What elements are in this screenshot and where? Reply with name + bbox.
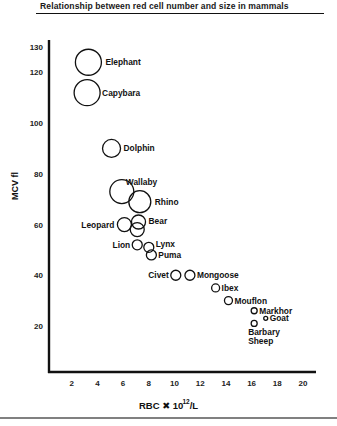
point-label: Leopard (81, 220, 114, 230)
data-point-mongoose: Mongoose (185, 270, 239, 280)
point-label: Puma (158, 250, 181, 260)
y-tick-label: 100 (30, 119, 44, 128)
scatter-plot: 2468101214161820 20406080100120130 Eleph… (0, 0, 337, 426)
data-point-elephant: Elephant (75, 49, 141, 75)
x-axis-label-unit: /L (190, 400, 198, 411)
y-tick-labels: 20406080100120130 (30, 43, 44, 331)
x-axis-label: RBC ✖ 1012/L (139, 398, 198, 411)
y-tick-label: 20 (34, 322, 43, 331)
point-label: Mouflon (234, 296, 267, 306)
point-label: Bear (149, 216, 168, 226)
point-label: Mongoose (197, 270, 239, 280)
y-tick-label: 40 (34, 271, 43, 280)
point-marker (251, 308, 257, 314)
x-tick-label: 2 (69, 379, 74, 388)
point-marker (251, 320, 257, 326)
x-tick-label: 12 (196, 379, 205, 388)
y-tick-label: 130 (30, 43, 44, 52)
x-tick-label: 4 (95, 379, 100, 388)
point-marker (117, 218, 131, 232)
data-point-mouflon: Mouflon (224, 296, 267, 306)
point-label: Dolphin (124, 143, 155, 153)
data-point-dolphin: Dolphin (103, 139, 155, 157)
y-tick-label: 80 (34, 170, 43, 179)
point-label: Sheep (248, 336, 273, 346)
point-marker (171, 270, 181, 280)
data-point-civet: Civet (148, 270, 180, 280)
data-point-capybara: Capybara (74, 80, 141, 106)
data-point-ibex: Ibex (212, 283, 239, 293)
point-marker (185, 270, 195, 280)
point-marker (264, 316, 268, 320)
point-label: Wallaby (126, 177, 158, 187)
x-tick-label: 20 (299, 379, 308, 388)
data-point-rhino: Rhino (129, 191, 179, 213)
point-label: Lion (113, 240, 131, 250)
point-label: Goat (270, 313, 289, 323)
data-points: ElephantCapybaraDolphinWallabyRhinoLeopa… (74, 49, 293, 346)
x-tick-label: 18 (273, 379, 282, 388)
data-point-lion: Lion (113, 240, 143, 250)
point-label: Lynx (156, 239, 176, 249)
y-tick-label: 120 (30, 68, 44, 77)
point-marker (130, 223, 144, 237)
point-label: Rhino (155, 197, 179, 207)
point-marker (103, 139, 121, 157)
point-label: Civet (148, 270, 169, 280)
point-label: Capybara (102, 88, 141, 98)
point-label: Elephant (105, 57, 141, 67)
page-bottom-rule (0, 417, 337, 419)
x-axis-label-main: RBC ✖ 10 (139, 400, 183, 411)
x-tick-label: 16 (247, 379, 256, 388)
x-axis-label-exponent: 12 (182, 398, 189, 405)
point-marker (224, 297, 232, 305)
point-marker (74, 80, 100, 106)
x-tick-label: 14 (221, 379, 230, 388)
y-axis-label: MCV fl (10, 172, 20, 200)
point-label: Ibex (222, 283, 239, 293)
data-point-unlabeled (130, 223, 144, 237)
point-marker (132, 240, 142, 250)
data-point-leopard: Leopard (81, 218, 131, 232)
point-marker (212, 284, 220, 292)
point-marker (129, 191, 151, 213)
x-tick-labels: 2468101214161820 (69, 379, 308, 388)
x-tick-label: 8 (147, 379, 152, 388)
point-marker (75, 49, 101, 75)
data-point-barbary-sheep: BarbarySheep (248, 320, 280, 346)
x-tick-label: 6 (121, 379, 126, 388)
y-tick-label: 60 (34, 221, 43, 230)
x-tick-label: 10 (170, 379, 179, 388)
